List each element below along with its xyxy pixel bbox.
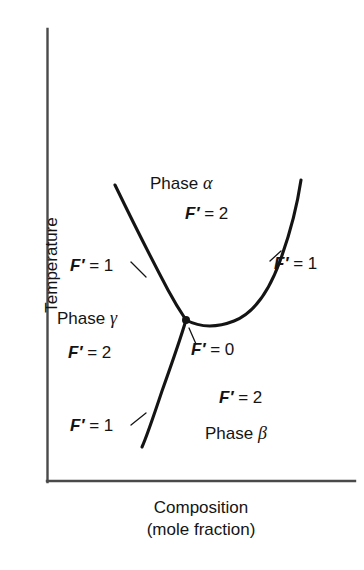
dof-right-upper-value: = 1	[293, 254, 317, 273]
phase-beta-symbol: β	[258, 423, 267, 443]
phase-gamma-label: Phase γ	[57, 309, 117, 327]
dof-gamma-value: = 2	[87, 343, 111, 362]
x-axis-title: Composition (mole fraction)	[47, 497, 355, 541]
dof-right-upper-symbol: F′	[274, 254, 288, 273]
phase-alpha-label: Phase α	[150, 174, 212, 192]
dof-gamma-symbol: F′	[68, 343, 82, 362]
dof-lower-left-value: = 1	[89, 416, 113, 435]
dof-beta-symbol: F′	[219, 388, 233, 407]
dof-beta-label: F′ = 2	[219, 389, 262, 406]
dof-triple-point-symbol: F′	[191, 340, 205, 359]
phase-alpha-word: Phase	[150, 174, 198, 193]
dof-beta-value: = 2	[238, 388, 262, 407]
phase-diagram-figure: Phase α F′ = 2 F′ = 1 F′ = 1 Phase γ F′ …	[0, 0, 364, 570]
phase-beta-label: Phase β	[205, 424, 267, 442]
dof-lower-left-symbol: F′	[70, 416, 84, 435]
dof-left-upper-value: = 1	[89, 256, 113, 275]
boundary-alpha-gamma-curve	[115, 185, 186, 320]
dof-alpha-value: = 2	[204, 204, 228, 223]
phase-gamma-symbol: γ	[110, 308, 117, 328]
dof-alpha-label: F′ = 2	[185, 205, 228, 222]
dof-triple-point-value: = 0	[210, 340, 234, 359]
dof-left-upper-boundary-label: F′ = 1	[70, 257, 113, 274]
phase-gamma-word: Phase	[57, 309, 105, 328]
boundary-gamma-beta-curve	[142, 320, 186, 447]
dof-gamma-label: F′ = 2	[68, 344, 111, 361]
dof-triple-point-label: F′ = 0	[191, 341, 234, 358]
leader-left-upper	[131, 262, 146, 277]
dof-alpha-symbol: F′	[185, 204, 199, 223]
phase-alpha-symbol: α	[203, 173, 212, 193]
dof-left-upper-symbol: F′	[70, 256, 84, 275]
dof-right-upper-boundary-label: F′ = 1	[274, 255, 317, 272]
x-axis-title-line1: Composition	[47, 497, 355, 519]
dof-lower-left-boundary-label: F′ = 1	[70, 417, 113, 434]
triple-point-marker	[182, 316, 190, 324]
leader-lower-left	[131, 413, 146, 425]
x-axis-title-line2: (mole fraction)	[47, 519, 355, 541]
phase-beta-word: Phase	[205, 424, 253, 443]
y-axis-title: Temperature	[42, 165, 62, 365]
boundary-alpha-beta-curve	[186, 180, 301, 326]
